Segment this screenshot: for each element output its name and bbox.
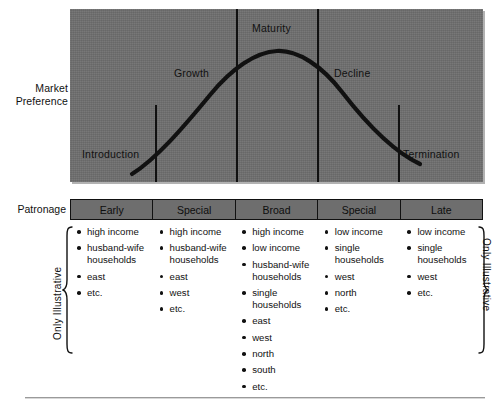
patronage-bullet-item: low income [406, 226, 483, 238]
patronage-bullet-item: east [159, 271, 236, 283]
figure-root: Market Preference Introduction Growth Ma… [0, 0, 500, 406]
patronage-header-cell[interactable]: Special [318, 200, 400, 219]
patronage-column-special2: low incomesingle householdswestnorthetc. [318, 226, 401, 397]
patronage-bullet-item: low income [324, 226, 401, 238]
patronage-bullet-item: west [241, 332, 318, 344]
patronage-column-broad: high incomelow incomehusband-wife househ… [235, 226, 318, 397]
patronage-header-cell[interactable]: Early [71, 200, 153, 219]
patronage-bullet-item: high income [241, 226, 318, 238]
patronage-bullet-item: etc. [324, 303, 401, 315]
patronage-bullet-item: west [406, 271, 483, 283]
patronage-bullet-item: low income [241, 242, 318, 254]
patronage-bullet-item: single households [324, 242, 401, 266]
patronage-bullet-item: etc. [76, 287, 153, 299]
patronage-bullet-item: single households [406, 242, 483, 266]
patronage-bullet-item: north [241, 348, 318, 360]
patronage-bullet-item: etc. [159, 303, 236, 315]
patronage-bullet-item: high income [159, 226, 236, 238]
patronage-bullet-item: west [159, 287, 236, 299]
patronage-bullet-item: south [241, 364, 318, 376]
patronage-column-early: high incomehusband-wife householdseastet… [70, 226, 153, 397]
patronage-bullet-item: east [241, 315, 318, 327]
patronage-column-special1: high incomehusband-wife householdseastwe… [153, 226, 236, 397]
chart-panel: Introduction Growth Maturity Decline Ter… [70, 9, 483, 182]
y-axis-label-line-2: Preference [0, 95, 68, 108]
bottom-divider-rule [25, 397, 485, 399]
patronage-header-row: Early Special Broad Special Late [70, 199, 483, 220]
patronage-row-label: Patronage [0, 203, 66, 215]
right-brace [477, 226, 489, 354]
patronage-bullet-item: husband-wife households [159, 242, 236, 266]
patronage-bullet-item: north [324, 287, 401, 299]
patronage-bullet-item: high income [76, 226, 153, 238]
patronage-column-late: low incomesingle householdswestetc. [400, 226, 483, 397]
patronage-header-cell[interactable]: Late [401, 200, 482, 219]
left-brace [62, 226, 74, 354]
patronage-bullet-item: west [324, 271, 401, 283]
patronage-bullet-item: single households [241, 287, 318, 311]
patronage-bullet-item: husband-wife households [76, 242, 153, 266]
left-brace-icon [62, 226, 74, 354]
patronage-bullet-item: east [76, 271, 153, 283]
y-axis-label: Market Preference [0, 82, 68, 108]
patronage-bullet-item: husband-wife households [241, 259, 318, 283]
patronage-header-cell[interactable]: Broad [236, 200, 318, 219]
patronage-header-cell[interactable]: Special [153, 200, 235, 219]
y-axis-label-line-1: Market [0, 82, 68, 95]
patronage-bullet-item: etc. [406, 287, 483, 299]
patronage-bullet-item: etc. [241, 381, 318, 393]
patronage-body: high incomehusband-wife householdseastet… [70, 226, 483, 397]
life-cycle-curve [70, 9, 483, 182]
right-brace-icon [477, 226, 489, 354]
